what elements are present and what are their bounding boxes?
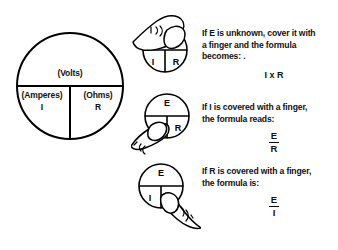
block3-line1: If R is covered with a finger, [202,166,336,178]
block1-formula: I x R [202,70,336,80]
block3-numerator: E [269,195,279,205]
illus1-label-r: R [173,57,180,67]
wheel-cell-amperes: (Amperes) I [14,90,70,112]
wheel-volts-unit: (Volts) [16,68,124,79]
illustration-finger-covers-i: E R [131,84,201,156]
block2-denominator: R [269,144,280,154]
illus3-label-e: E [158,168,164,178]
illustration-finger-covers-e: I R [131,8,201,80]
block2-line1: If I is covered with a finger, [202,102,336,114]
illustration-finger-covers-r: E I [131,158,201,230]
block3-formula-fraction: E I [202,195,336,220]
block2-fraction-inner: E R [269,131,280,154]
wheel-cell-ohms: (Ohms) R [70,90,126,112]
block1-line1: If E is unknown, cover it with [202,28,336,40]
wheel-amperes-symbol: I [14,102,70,113]
illus1-label-i: I [152,57,155,67]
wheel-ohms-unit: (Ohms) [70,90,126,101]
ohms-law-wheel: (Volts) (Amperes) I (Ohms) R [16,32,124,140]
illus3-label-i: I [149,193,152,203]
instruction-block-e: If E is unknown, cover it with a finger … [202,28,336,80]
block3-line2: the formula is: [202,178,336,190]
wheel-amperes-unit: (Amperes) [14,90,70,101]
block1-line3: becomes: . [202,51,336,63]
wheel-cell-volts: (Volts) [16,68,124,80]
block3-fraction-inner: E I [269,195,279,218]
block3-denominator: I [269,208,279,218]
illus2-label-r: R [175,123,182,133]
block2-line2: the formula reads: [202,114,336,126]
block1-line2: a finger and the formula [202,40,336,52]
instruction-block-r: If R is covered with a finger, the formu… [202,166,336,220]
block2-formula-fraction: E R [202,131,336,156]
wheel-ohms-symbol: R [70,102,126,113]
illus2-label-e: E [164,98,170,108]
block2-numerator: E [269,131,280,141]
instruction-block-i: If I is covered with a finger, the formu… [202,102,336,156]
